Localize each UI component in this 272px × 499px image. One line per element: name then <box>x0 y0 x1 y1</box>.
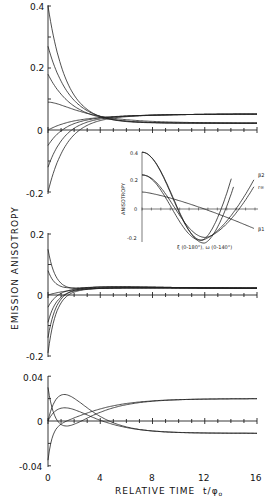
bot-ytick-2: -0.04 <box>19 462 43 472</box>
inset-curve-4 <box>142 192 254 228</box>
bottom-panel: 0.04 0 -0.04 0 4 8 12 16 RELATIVE TIMEt/… <box>19 373 262 497</box>
inset-y-title: ANISOTROPY <box>120 182 126 215</box>
legend-beta1: β1 <box>258 226 264 233</box>
top-panel: 0.4 0.2 0 -0.2 <box>26 2 257 199</box>
xtick-8: 8 <box>149 473 155 483</box>
y-axis-title: EMISSION ANISOTROPY <box>10 206 20 330</box>
top-ytick-1: 0.2 <box>30 63 44 73</box>
top-ytick-3: -0.2 <box>26 189 44 199</box>
mid-ytick-1: 0 <box>37 291 43 301</box>
top-ytick-0: 0.4 <box>30 2 45 12</box>
top-curve-1 <box>48 46 257 123</box>
xtick-16: 16 <box>250 473 262 483</box>
bot-curve-3 <box>48 399 257 461</box>
anisotropy-figure: EMISSION ANISOTROPY 0.4 0.2 0 -0.2 0.4 0… <box>0 0 272 499</box>
top-curve-2 <box>48 74 257 123</box>
x-axis-title: RELATIVE TIMEt/φo <box>115 486 223 497</box>
inset-ytick-0: 0.4 <box>130 150 138 156</box>
inset-ytick-2: 0 <box>134 206 137 212</box>
xtick-4: 4 <box>97 473 103 483</box>
inset-curve-3 <box>142 175 254 238</box>
inset-ytick-1: 0.2 <box>130 177 138 183</box>
inset-panel: 0.4 0.2 0 -0.2 ANISOTROPY ξ (0-180°), ω … <box>120 150 264 251</box>
inset-x-title: ξ (0-180°), ω (0-140°) <box>177 244 232 251</box>
legend-r-inf: r∞ <box>258 184 264 190</box>
top-curves <box>48 6 257 192</box>
mid-curve-1 <box>48 271 257 289</box>
bot-ytick-1: 0 <box>37 417 43 427</box>
xtick-12: 12 <box>198 473 209 483</box>
inset-ytick-3: -0.2 <box>127 235 137 241</box>
bot-curve-0 <box>48 395 257 434</box>
xtick-0: 0 <box>45 473 51 483</box>
legend-beta2: β2 <box>258 172 264 179</box>
mid-curve-0 <box>48 249 257 288</box>
bot-ytick-0: 0.04 <box>23 373 43 383</box>
top-ytick-2: 0 <box>37 126 43 136</box>
mid-ytick-0: 0.2 <box>30 230 44 240</box>
mid-ytick-2: -0.2 <box>26 352 44 362</box>
